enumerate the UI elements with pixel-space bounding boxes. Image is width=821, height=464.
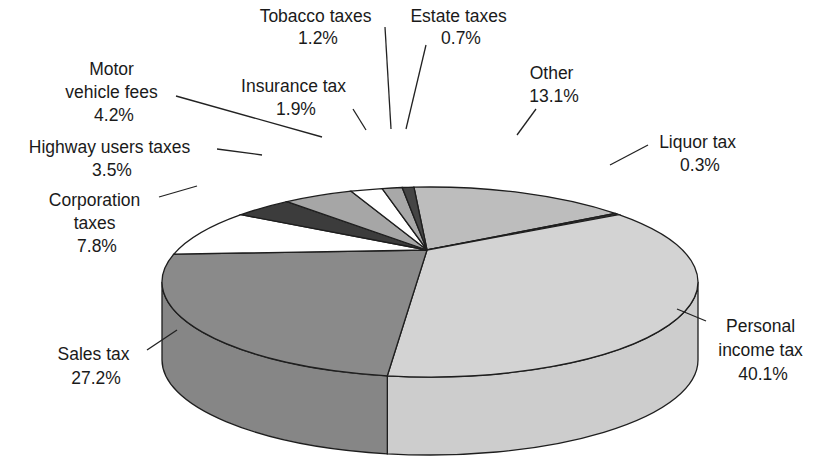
leader-liquor [610,145,648,165]
label-motor-vehicle: Motor vehicle fees 4.2% [65,59,162,125]
label-corporation: Corporation taxes 7.8% [49,190,145,256]
label-insurance: Insurance tax 1.9% [241,76,351,119]
label-highway: Highway users taxes 3.5% [29,137,195,180]
label-sales: Sales tax 27.2% [58,344,135,388]
leader-estate [406,45,426,129]
leader-other [517,109,536,135]
leader-insurance [353,109,366,130]
leader-highway [217,149,262,155]
label-estate: Estate taxes 0.7% [410,6,511,48]
pie-slices [162,187,698,377]
leader-tobacco [385,27,391,129]
label-liquor: Liquor tax 0.3% [659,132,741,175]
label-other: Other 13.1% [529,63,579,106]
label-tobacco: Tobacco taxes 1.2% [260,6,377,48]
label-personal-income: Personal income tax 40.1% [718,316,808,384]
pie-chart: Tobacco taxes 1.2% Estate taxes 0.7% Mot… [0,0,821,464]
leader-corporation [159,186,197,197]
